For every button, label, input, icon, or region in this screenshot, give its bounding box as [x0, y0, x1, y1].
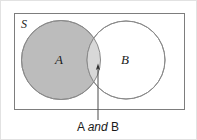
set-a-label: A — [54, 52, 63, 67]
venn-diagram-figure: S A B A and B — [0, 0, 197, 140]
callout-caption: A and B — [77, 120, 119, 134]
set-b-label: B — [121, 52, 129, 67]
universal-set-label: S — [21, 17, 27, 31]
caption-suffix: B — [111, 120, 119, 134]
caption-connective: and — [88, 120, 108, 134]
venn-diagram-canvas: S A B A and B — [0, 0, 197, 140]
